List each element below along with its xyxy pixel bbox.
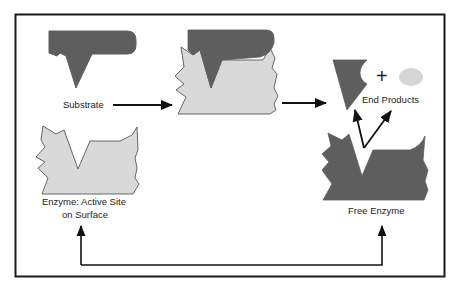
product-light-blob <box>399 68 423 86</box>
enzyme-cycle-diagram <box>0 0 457 295</box>
enzyme-label-line1: Enzyme: Active Site <box>42 196 126 208</box>
plus-sign: + <box>376 66 388 86</box>
substrate-label: Substrate <box>63 99 104 111</box>
free-enzyme-label: Free Enzyme <box>348 205 405 217</box>
enzyme-substrate-complex <box>175 30 278 114</box>
enzyme-label-line2: on Surface <box>62 209 108 221</box>
end-products-label: End Products <box>362 94 419 106</box>
